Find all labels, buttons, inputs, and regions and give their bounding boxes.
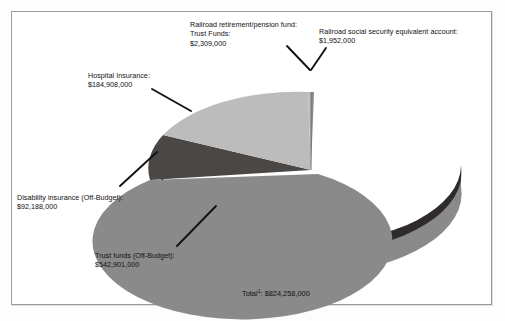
leader-railroad-ssea	[311, 48, 326, 70]
label-railroad-ssea: Railroad social security equivalent acco…	[319, 27, 458, 46]
label-trust-funds-amount: $542,901,000	[95, 260, 175, 269]
total-text: Total	[242, 289, 258, 298]
chart-figure: Railroad retirement/pension fund: Trust …	[0, 0, 505, 321]
label-disability-insurance: Disability insurance (Off-Budget): $92,1…	[17, 193, 123, 212]
label-disability-insurance-line1: Disability insurance (Off-Budget):	[17, 193, 123, 202]
label-railroad-ssea-amount: $1,952,000	[319, 36, 458, 45]
label-disability-insurance-amount: $92,188,000	[17, 202, 123, 211]
label-railroad-retirement-line1: Railroad retirement/pension fund:	[190, 20, 297, 29]
leader-hospital-insurance	[152, 89, 191, 111]
slice-railroad-ssea	[311, 92, 314, 170]
label-trust-funds-offbudget: Trust funds (Off-Budget): $542,901,000	[95, 251, 175, 270]
total-label: Total1: $824,258,000	[242, 288, 310, 298]
label-hospital-insurance: Hospital Insurance: $184,908,000	[88, 71, 150, 90]
label-railroad-retirement-amount: $2,309,000	[190, 39, 297, 48]
label-railroad-ssea-line1: Railroad social security equivalent acco…	[319, 27, 458, 36]
pie-top-faces	[93, 92, 393, 320]
label-hospital-insurance-line1: Hospital Insurance:	[88, 71, 150, 80]
label-railroad-retirement: Railroad retirement/pension fund: Trust …	[190, 20, 297, 48]
leader-railroad-retirement	[287, 46, 310, 70]
label-trust-funds-line1: Trust funds (Off-Budget):	[95, 251, 175, 260]
total-value: $824,258,000	[265, 289, 310, 298]
label-railroad-retirement-line2: Trust Funds:	[190, 29, 297, 38]
label-hospital-insurance-amount: $184,908,000	[88, 80, 150, 89]
